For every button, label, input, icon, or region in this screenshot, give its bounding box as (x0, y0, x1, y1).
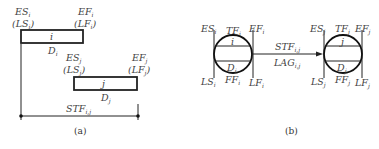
stf-lag-arrow: STFi,j LAGi,j (253, 41, 323, 70)
node-i-tf: TFi (226, 25, 241, 37)
node-i-ls: LSi (200, 76, 216, 88)
duration-i-label: Di (47, 45, 58, 57)
node-j-ff: FFj (334, 74, 350, 87)
diagram-canvas: ESi (LSi) EFi (LFi) i Di ESj (LSj) EFj (… (0, 0, 379, 149)
lf-j-label: (LFj) (128, 64, 150, 77)
activity-i-name: i (50, 31, 53, 42)
panel-a: ESi (LSi) EFi (LFi) i Di ESj (LSj) EFj (… (12, 6, 150, 136)
panel-b: i Di ESi TFi EFi LSi FFi LFi STFi,j LAGi… (200, 23, 371, 136)
node-i: i Di ESi TFi EFi LSi FFi LFi (200, 23, 265, 89)
lf-i-label: (LFi) (74, 18, 97, 30)
arrow-stf-label: STFi,j (275, 41, 300, 54)
ls-i-label: (LSi) (12, 18, 34, 30)
stf-left-dot (19, 114, 23, 118)
ef-i-label: EFi (77, 6, 94, 18)
node-j-lf: LFj (354, 77, 370, 90)
stf-ij-label: STFi,j (66, 103, 91, 116)
panel-a-caption: (a) (74, 126, 86, 136)
es-i-label: ESi (14, 6, 30, 18)
activity-j-bar (74, 77, 137, 90)
node-j-es: ESj (309, 23, 325, 36)
node-i-ff: FFi (224, 74, 240, 86)
node-i-name: i (231, 36, 234, 47)
ls-j-label: (LSj) (63, 64, 85, 77)
stf-right-dot (136, 114, 140, 118)
node-j-ls: LSj (310, 76, 326, 89)
arrow-lag-label: LAGi,j (273, 57, 301, 70)
node-i-es: ESi (200, 23, 216, 35)
duration-j-label: Dj (100, 92, 111, 105)
panel-b-caption: (b) (285, 126, 298, 136)
node-i-ef: EFi (248, 23, 265, 35)
node-i-lf: LFi (248, 77, 264, 89)
arrow-head-icon (316, 52, 323, 57)
node-j: j Dj ESj TFj EFj LSj FFj LFj (309, 23, 371, 90)
node-j-tf: TFj (335, 23, 350, 36)
